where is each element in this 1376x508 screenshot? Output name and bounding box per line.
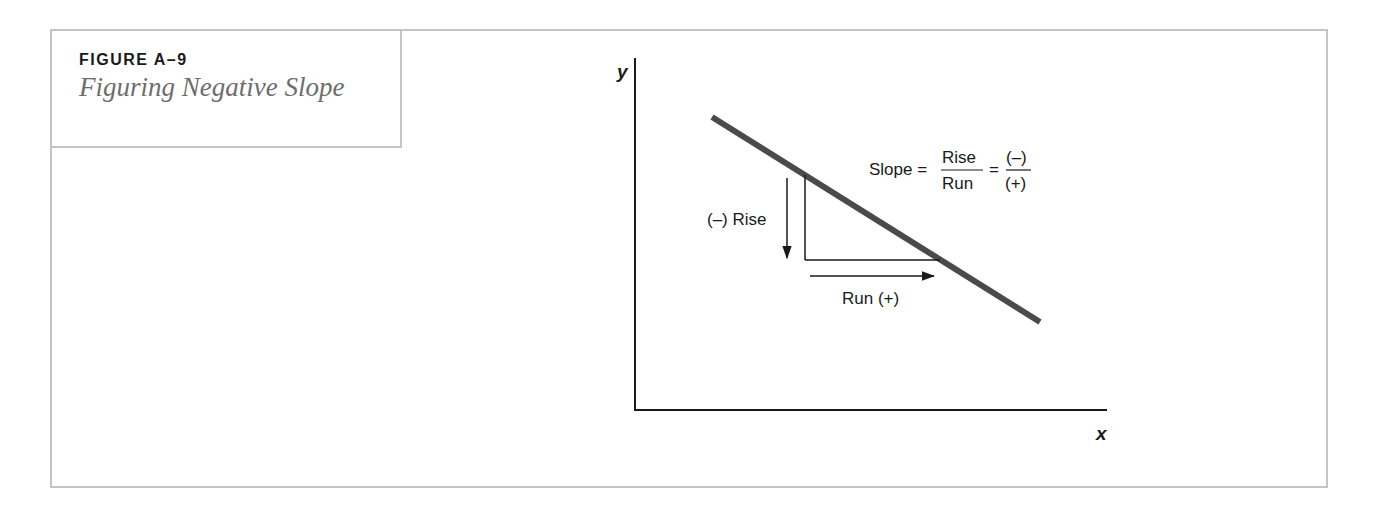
slope-diagram: y x (–) Rise Run (+) Slope = Rise Run = … [0, 0, 1376, 508]
rise-label: (–) Rise [707, 210, 767, 229]
slope-formula: Slope = Rise Run = (–) (+) [869, 148, 1031, 193]
formula-frac2-num: (–) [1006, 148, 1027, 167]
formula-frac2-den: (+) [1005, 174, 1026, 193]
run-label: Run (+) [842, 289, 899, 308]
formula-frac1-den: Run [942, 174, 973, 193]
formula-lhs: Slope = [869, 160, 927, 179]
y-axis-label: y [616, 61, 629, 82]
x-axis-label: x [1095, 423, 1108, 444]
formula-equals: = [989, 160, 999, 179]
formula-frac1-num: Rise [942, 148, 976, 167]
